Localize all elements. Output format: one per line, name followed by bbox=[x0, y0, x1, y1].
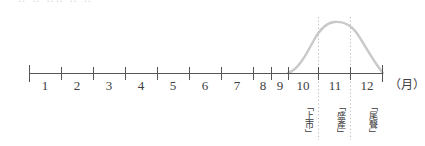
axis-label-month-3: 3 bbox=[92, 79, 126, 92]
axis-unit-label: （月） bbox=[389, 79, 425, 92]
axis-label-month-12: 12 bbox=[350, 79, 384, 92]
axis-label-month-10: 10 bbox=[286, 79, 320, 92]
production-curve bbox=[288, 22, 383, 73]
axis-label-month-2: 2 bbox=[60, 79, 94, 92]
axis-label-month-6: 6 bbox=[188, 79, 222, 92]
phase-label-shangshi: 「上市」 bbox=[292, 97, 314, 143]
phase-label-shengchan: 「盛產」 bbox=[324, 97, 346, 143]
axis-label-month-5: 5 bbox=[156, 79, 190, 92]
production-season-timeline-figure: ‥ ‥ ‥‥ ‥ ‥ 1 2 3 4 5 6 7 bbox=[0, 0, 425, 146]
axis-label-month-4: 4 bbox=[124, 79, 158, 92]
phase-label-weisheng: 「尾聲」 bbox=[356, 97, 378, 143]
axis-label-month-11: 11 bbox=[318, 79, 352, 92]
axis-label-month-1: 1 bbox=[28, 79, 62, 92]
